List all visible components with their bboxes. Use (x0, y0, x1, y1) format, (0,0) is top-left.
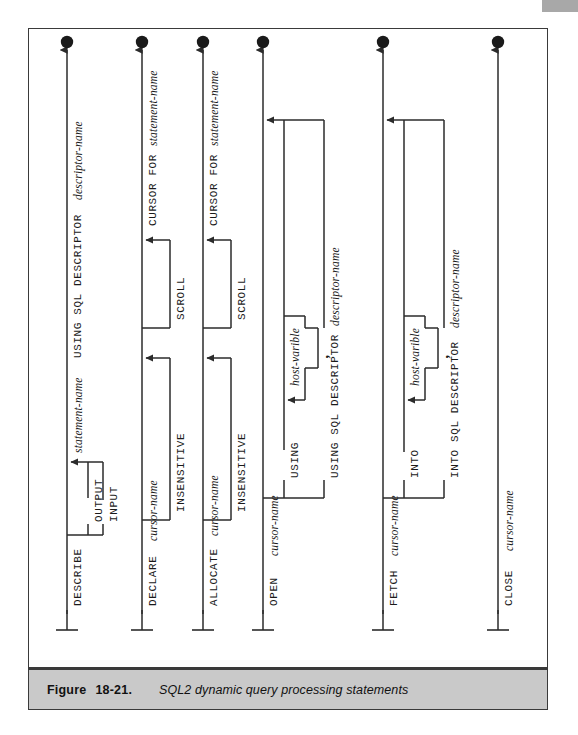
caption-label: Figure (47, 683, 86, 697)
terminal-dots (61, 36, 504, 48)
branch-describe (56, 50, 103, 630)
caption-number: 18-21. (95, 683, 132, 697)
branch-declare (131, 50, 170, 630)
caption-text: SQL2 dynamic query processing statements (159, 683, 408, 697)
figure-caption-bar: Figure 18-21. SQL2 dynamic query process… (28, 668, 548, 710)
branch-fetch (372, 50, 444, 630)
branch-open (252, 50, 324, 630)
page-canvas: DESCRIBE OUTPUT INPUT statement-name USI… (0, 0, 578, 735)
branch-allocate (192, 50, 231, 630)
railroad-diagram (28, 28, 548, 668)
branch-close (487, 50, 509, 630)
page-edge-artifact (542, 0, 578, 12)
